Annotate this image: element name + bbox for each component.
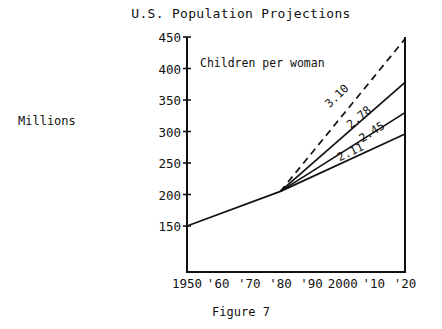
series-label-3.10: 3.10 (322, 81, 352, 110)
series-labels: 3.102.782.452.11 (322, 81, 387, 164)
chart-annotation: Children per woman (200, 56, 325, 70)
data-line-historical (187, 191, 280, 226)
series-label-2.11: 2.11 (335, 139, 366, 164)
plot-area: 3.102.782.452.11 (0, 0, 442, 329)
figure-caption: Figure 7 (0, 305, 442, 319)
axis-frame (187, 37, 405, 272)
figure-container: U.S. Population Projections Millions 450… (0, 0, 442, 329)
